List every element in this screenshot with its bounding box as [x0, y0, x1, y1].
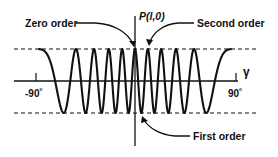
- second-order-arrowhead-icon: [146, 39, 153, 46]
- x-tick-label-plus-90: 90˚: [228, 88, 242, 99]
- x-axis-label-gamma: γ: [243, 65, 250, 79]
- second-order-arrow: [150, 23, 194, 42]
- first-order-arrow: [144, 120, 190, 136]
- zero-order-label: Zero order: [25, 17, 78, 29]
- diffraction-order-diagram: -90˚ 90˚ γ P(l,0) Zero order Second orde…: [0, 0, 278, 157]
- zero-order-arrow: [76, 23, 133, 44]
- first-order-label: First order: [193, 130, 246, 142]
- second-order-label: Second order: [197, 17, 265, 29]
- x-tick-label-minus-90: -90˚: [25, 88, 43, 99]
- first-order-arrowhead-icon: [141, 116, 148, 123]
- y-axis-label-p-l0: P(l,0): [139, 10, 165, 22]
